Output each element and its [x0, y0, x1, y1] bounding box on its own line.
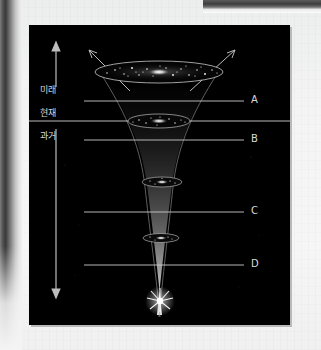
galaxy-past-lower	[143, 234, 179, 243]
top-header-bar	[203, 0, 321, 9]
top-header-bar-underline	[203, 9, 321, 13]
time-label-past: 과거	[40, 129, 57, 142]
callout-label-D: D	[251, 258, 259, 269]
big-bang-burst	[145, 286, 175, 316]
time-axis-arrows	[52, 42, 60, 298]
figure-plate	[29, 25, 290, 325]
galaxy-present	[128, 114, 190, 128]
time-label-present: 현재	[40, 106, 57, 119]
page-spine-fade	[0, 246, 22, 350]
galaxy-past-upper	[142, 177, 182, 187]
callout-label-B: B	[251, 133, 258, 144]
callout-label-C: C	[251, 205, 258, 216]
screenshot-root: 미래 현재 과거 A B C D	[0, 0, 321, 350]
callout-label-A: A	[251, 94, 258, 105]
universe-diagram-svg	[29, 25, 290, 325]
time-label-future: 미래	[40, 83, 57, 96]
expansion-cone	[101, 72, 218, 315]
caption-area	[29, 330, 290, 348]
galaxy-future	[95, 61, 223, 83]
